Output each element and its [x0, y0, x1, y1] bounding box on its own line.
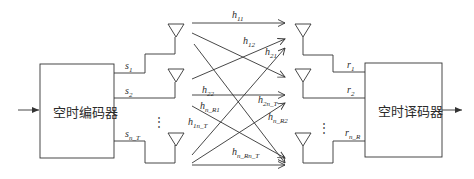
tx-signal-s1: s1	[125, 60, 132, 74]
decoder-label: 空时译码器	[378, 101, 443, 120]
channel-h1nT: h1n_T	[188, 116, 207, 130]
rx-signal-rnR: rn_R	[345, 127, 360, 141]
channel-hnR2: hn_R2	[268, 111, 288, 125]
encoder-label: 空时编码器	[53, 102, 118, 121]
tx-antenna-3	[168, 133, 184, 146]
rx-signal-r2: r2	[347, 84, 354, 98]
channel-h2nT: h2n_T	[258, 94, 277, 108]
rx-antenna-3	[295, 133, 311, 146]
tx-signal-s2: s2	[125, 85, 132, 99]
rx-ellipsis: ⋮	[318, 126, 330, 130]
channel-h11: h11	[232, 9, 243, 23]
tx-signal-snT: sn_T	[125, 128, 140, 142]
rx-antenna-2	[295, 69, 311, 82]
channel-h21: h21	[265, 46, 277, 60]
tx-antenna-1	[168, 24, 184, 37]
rx-signal-r1: r1	[347, 59, 354, 73]
rx-antenna-1	[295, 24, 311, 37]
channel-h12: h12	[243, 35, 255, 49]
channel-hnR1: hn_R1	[200, 100, 220, 114]
channel-h22: h22	[202, 84, 214, 98]
tx-ellipsis: ⋮	[153, 120, 165, 124]
channel-hnRnT: hn_Rn_T	[232, 146, 259, 160]
tx-antenna-2	[168, 69, 184, 82]
